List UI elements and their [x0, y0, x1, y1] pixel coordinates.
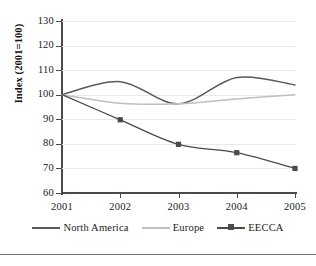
data-point-marker — [118, 117, 123, 122]
data-point-marker — [292, 166, 297, 171]
series-line — [62, 95, 295, 105]
y-axis-tick-label: 120 — [28, 40, 54, 51]
y-axis-tick-label: 100 — [28, 89, 54, 100]
plot-area — [62, 21, 295, 193]
y-axis-tick-label: 80 — [28, 138, 54, 149]
y-axis-tick-label: 70 — [28, 163, 54, 174]
series-layer — [62, 21, 295, 193]
chart-legend: North AmericaEuropeEECCA — [0, 222, 316, 233]
x-axis-tick-label: 2004 — [214, 201, 260, 212]
legend-item-europe[interactable]: Europe — [142, 222, 205, 233]
legend-label: North America — [63, 222, 128, 233]
series-europe — [62, 95, 295, 105]
x-axis-tick-label: 2003 — [156, 201, 202, 212]
data-point-marker — [234, 150, 239, 155]
footer-divider — [0, 254, 316, 255]
y-axis-title: Index (2001=100) — [13, 0, 24, 129]
legend-item-north-america[interactable]: North America — [32, 222, 128, 233]
y-axis-tick-label: 90 — [28, 114, 54, 125]
y-axis-tick-label: 110 — [28, 65, 54, 76]
data-point-marker — [176, 142, 181, 147]
x-axis-tick-label: 2005 — [272, 201, 316, 212]
series-eecca — [62, 95, 298, 171]
series-line — [62, 95, 295, 169]
y-axis-tick-label: 130 — [28, 16, 54, 27]
chart-figure: Index (2001=100) 13012011010090807060 20… — [0, 0, 316, 266]
y-axis-tick-label: 60 — [28, 188, 54, 199]
x-axis-tick-label: 2001 — [39, 201, 85, 212]
legend-label: Europe — [173, 222, 205, 233]
legend-swatch-icon — [142, 223, 170, 233]
legend-swatch-icon — [217, 223, 245, 233]
legend-swatch-icon — [32, 223, 60, 233]
x-axis-tick-label: 2002 — [97, 201, 143, 212]
legend-item-eecca[interactable]: EECCA — [217, 222, 283, 233]
legend-label: EECCA — [248, 222, 283, 233]
